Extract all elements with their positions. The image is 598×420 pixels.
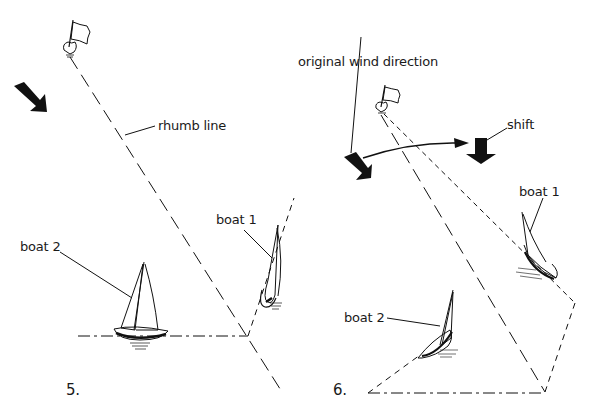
boat-2-label: boat 2 xyxy=(20,240,60,253)
figure-5 xyxy=(14,20,294,392)
figure-6-number: 6. xyxy=(333,383,347,398)
figure-5-number: 5. xyxy=(66,383,80,398)
boat-1-label: boat 1 xyxy=(519,185,559,198)
mark-flag-icon xyxy=(64,20,91,57)
shift-label: shift xyxy=(507,118,534,131)
boat-1-label: boat 1 xyxy=(216,213,256,226)
sailboat-icon xyxy=(261,225,282,309)
sailboat-icon xyxy=(516,212,557,279)
figure-6 xyxy=(344,37,575,393)
wind-arrow-icon xyxy=(14,82,47,112)
boat-2-label: boat 2 xyxy=(344,311,384,324)
shifted-wind-arrow-icon xyxy=(466,138,496,164)
sailing-diagrams: rhumb line boat 1 boat 2 5. original win… xyxy=(0,0,598,420)
mark-flag-icon xyxy=(376,85,400,113)
curved-arrow-icon xyxy=(363,138,469,158)
original-wind-direction-label: original wind direction xyxy=(298,55,438,68)
rhumb-line-label: rhumb line xyxy=(158,119,226,132)
